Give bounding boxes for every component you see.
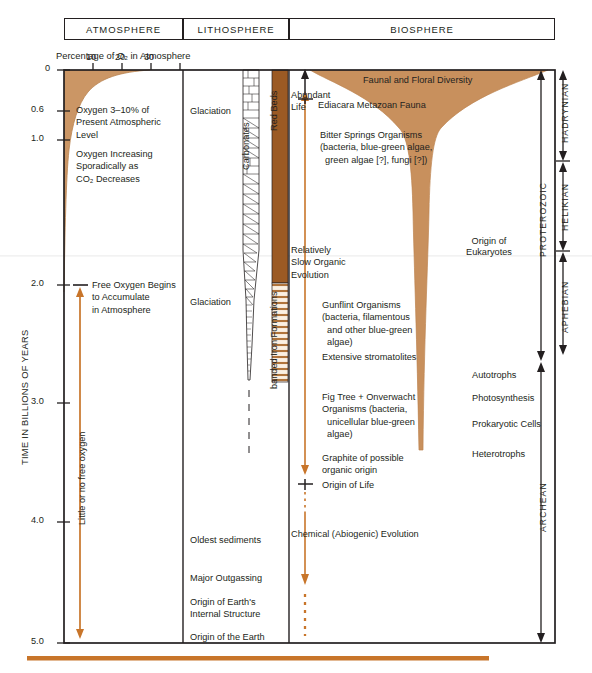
oxygen-increasing-label: Oxygen Increasing Sporadically as CO₂ De… (76, 148, 153, 185)
helikian-label: HELIKIAN (560, 183, 570, 231)
chemical-evolution-arrow (301, 492, 309, 636)
origin-of-life-marker (298, 479, 313, 490)
chemical-evolution-label: Chemical (Abiogenic) Evolution (291, 528, 419, 540)
archean-label: ARCHEAN (538, 482, 548, 532)
relatively-slow-evolution-label: Relatively Slow Organic Evolution (291, 244, 346, 281)
time-tick-50: 5.0 (31, 636, 44, 646)
extensive-stromatolites-label: Extensive stromatolites (322, 351, 416, 363)
proterozoic-label: PROTEROZOIC (538, 182, 548, 257)
glaciation-label-2: Glaciation (190, 296, 231, 308)
photosynthesis-label: Photosynthesis (472, 392, 534, 404)
evolution-arrow (301, 91, 309, 475)
little-or-no-free-oxygen-label: Little or no free oxygen (76, 432, 88, 525)
oxygen-axis-ticks (93, 63, 180, 70)
graphite-label: Graphite of possible organic origin (322, 452, 404, 477)
gunflint-label: Gunflint Organisms (bacteria, filamentou… (322, 299, 412, 349)
carbonates-label: Carbonates (240, 123, 252, 171)
ediacara-label: Ediacara Metazoan Fauna (318, 99, 426, 111)
hadrynian-label: HADRYNIAN (560, 83, 570, 143)
faunal-floral-diversity-label: Faunal and Floral Diversity (363, 74, 472, 86)
red-beds-label: Red Beds (268, 91, 280, 131)
oldest-sediments-label: Oldest sediments (190, 534, 261, 546)
oxy-tick-30: 30 (144, 52, 154, 62)
oxy-tick-10: 10 (86, 52, 96, 62)
major-outgassing-label: Major Outgassing (190, 572, 262, 584)
time-tick-20: 2.0 (31, 278, 44, 288)
banded-iron-label: banded Iron Formations (268, 291, 280, 389)
oxy-tick-20: 20 (115, 52, 125, 62)
heterotrophs-label: Heterotrophs (472, 448, 525, 460)
bottom-orange-rule (27, 656, 489, 661)
origin-eukaryotes-label: Origin of Eukaryotes (466, 236, 512, 259)
prokaryotic-cells-label: Prokaryotic Cells (472, 418, 541, 430)
origin-internal-structure-label: Origin of Earth's Internal Structure (190, 596, 260, 621)
time-tick-40: 4.0 (31, 515, 44, 525)
free-oxygen-label: Free Oxygen Begins to Accumulate in Atmo… (92, 279, 176, 316)
bitter-springs-label: Bitter Springs Organisms (bacteria, blue… (320, 129, 432, 166)
fig-tree-label: Fig Tree + Onverwacht Organisms (bacteri… (322, 391, 415, 441)
origin-of-earth-label: Origin of the Earth (190, 631, 265, 643)
time-tick-0: 0 (45, 63, 50, 73)
oxygen-3-10-label: Oxygen 3–10% of Present Atmospheric Leve… (76, 104, 161, 141)
origin-of-life-label: Origin of Life (322, 479, 374, 491)
time-axis-title: TIME IN BILLIONS OF YEARS (20, 330, 30, 465)
time-tick-06: 0.6 (31, 104, 44, 114)
aphebian-label: APHEBIAN (560, 281, 570, 333)
time-tick-30: 3.0 (31, 396, 44, 406)
glaciation-label-1: Glaciation (190, 105, 231, 117)
autotrophs-label: Autotrophs (472, 369, 516, 381)
time-tick-10: 1.0 (31, 133, 44, 143)
